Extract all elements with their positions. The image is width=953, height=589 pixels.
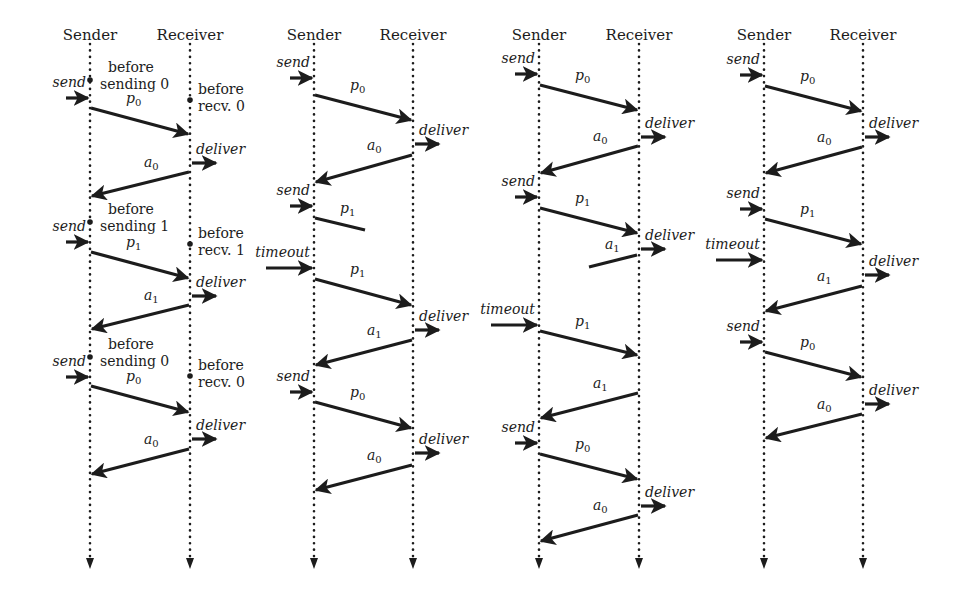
packet-label: p0 xyxy=(350,77,365,95)
state-label: beforerecv. 0 xyxy=(198,357,245,390)
sender-header: Sender xyxy=(63,26,118,44)
deliver-event-label: deliver xyxy=(869,382,919,398)
panel-c: SenderReceiversenddeliversenddelivertime… xyxy=(480,26,695,569)
packet-label: p1 xyxy=(126,234,141,252)
deliver-event-label: deliver xyxy=(196,417,246,433)
ack-message-arrow xyxy=(766,414,862,438)
packet-message-arrow xyxy=(91,252,188,278)
packet-label: p0 xyxy=(575,436,590,454)
receiver-header: Receiver xyxy=(380,26,448,44)
receiver-header: Receiver xyxy=(830,26,898,44)
packet-label: p1 xyxy=(800,201,815,219)
state-marker-icon xyxy=(87,354,93,360)
ack-message-arrow xyxy=(92,172,189,196)
deliver-event-label: deliver xyxy=(869,253,919,269)
packet-label: p0 xyxy=(800,68,815,86)
ack-label: a0 xyxy=(817,129,832,147)
packet-label: p0 xyxy=(575,67,590,85)
state-label: beforerecv. 0 xyxy=(198,81,245,114)
timeout-event-label: timeout xyxy=(705,236,760,252)
packet-message-arrow xyxy=(91,108,188,134)
ack-message-arrow xyxy=(316,465,412,490)
packet-label: p0 xyxy=(800,334,815,352)
packet-message-arrow xyxy=(315,95,411,120)
packet-message-arrow xyxy=(315,279,411,305)
packet-label: p1 xyxy=(575,190,590,208)
packet-message-arrow xyxy=(765,86,861,111)
ack-label: a0 xyxy=(144,431,159,449)
deliver-event-label: deliver xyxy=(419,308,469,324)
sender-header: Sender xyxy=(287,26,342,44)
packet-label: p0 xyxy=(350,384,365,402)
packet-message-arrow xyxy=(315,218,365,230)
ack-message-arrow xyxy=(316,155,412,182)
send-event-label: send xyxy=(53,353,86,369)
state-marker-icon xyxy=(187,241,193,247)
deliver-event-label: deliver xyxy=(419,122,469,138)
alternating-bit-protocol-timelines: SenderReceiverbeforesending 0beforerecv.… xyxy=(0,0,953,589)
lifeline-end-arrow-icon xyxy=(310,558,318,569)
panel-d: SenderReceiversenddeliversendtimeoutdeli… xyxy=(705,26,919,569)
timeout-event-label: timeout xyxy=(255,244,310,260)
ack-label: a1 xyxy=(593,375,608,393)
packet-message-arrow xyxy=(540,331,637,355)
sender-header: Sender xyxy=(737,26,792,44)
send-event-label: send xyxy=(53,74,86,90)
protocol-diagram: SenderReceiverbeforesending 0beforerecv.… xyxy=(0,0,953,589)
ack-label: a0 xyxy=(367,137,382,155)
send-event-label: send xyxy=(277,182,310,198)
ack-message-arrow xyxy=(766,286,862,311)
send-event-label: send xyxy=(727,185,760,201)
packet-message-arrow xyxy=(315,402,411,428)
send-event-label: send xyxy=(277,368,310,384)
send-event-label: send xyxy=(53,218,86,234)
receiver-header: Receiver xyxy=(157,26,225,44)
lifeline-end-arrow-icon xyxy=(859,558,867,569)
state-marker-icon xyxy=(87,219,93,225)
send-event-label: send xyxy=(502,50,535,66)
state-label: beforesending 1 xyxy=(100,201,169,234)
ack-message-arrow xyxy=(589,255,637,267)
lifeline-end-arrow-icon xyxy=(409,558,417,569)
ack-label: a0 xyxy=(367,447,382,465)
ack-label: a0 xyxy=(144,154,159,172)
packet-label: p1 xyxy=(350,261,365,279)
send-event-label: send xyxy=(727,51,760,67)
ack-message-arrow xyxy=(92,305,189,329)
packet-message-arrow xyxy=(540,454,637,479)
ack-label: a1 xyxy=(605,236,620,254)
packet-message-arrow xyxy=(540,208,637,233)
state-label: beforesending 0 xyxy=(100,336,169,369)
ack-label: a1 xyxy=(144,287,159,305)
packet-label: p1 xyxy=(575,313,590,331)
send-event-label: send xyxy=(277,54,310,70)
ack-label: a0 xyxy=(593,128,608,146)
ack-message-arrow xyxy=(92,449,189,474)
ack-message-arrow xyxy=(541,393,638,418)
ack-message-arrow xyxy=(541,146,638,173)
state-marker-icon xyxy=(187,373,193,379)
receiver-header: Receiver xyxy=(606,26,674,44)
deliver-event-label: deliver xyxy=(645,115,695,131)
ack-label: a1 xyxy=(817,268,832,286)
send-event-label: send xyxy=(502,173,535,189)
sender-header: Sender xyxy=(512,26,567,44)
ack-message-arrow xyxy=(316,340,412,365)
send-event-label: send xyxy=(502,419,535,435)
panel-b: SenderReceiversenddeliversendtimeoutdeli… xyxy=(255,26,469,569)
ack-message-arrow xyxy=(766,147,862,173)
state-label: beforesending 0 xyxy=(100,59,169,92)
deliver-event-label: deliver xyxy=(869,115,919,131)
packet-label: p1 xyxy=(340,200,355,218)
lifeline-end-arrow-icon xyxy=(186,558,194,569)
ack-label: a1 xyxy=(367,322,382,340)
packet-message-arrow xyxy=(540,85,637,110)
packet-label: p0 xyxy=(126,368,141,386)
ack-label: a0 xyxy=(593,497,608,515)
deliver-event-label: deliver xyxy=(196,141,246,157)
ack-message-arrow xyxy=(541,515,638,541)
state-marker-icon xyxy=(87,77,93,83)
packet-label: p0 xyxy=(126,90,141,108)
panel-a: SenderReceiverbeforesending 0beforerecv.… xyxy=(53,26,247,569)
packet-message-arrow xyxy=(91,386,188,412)
